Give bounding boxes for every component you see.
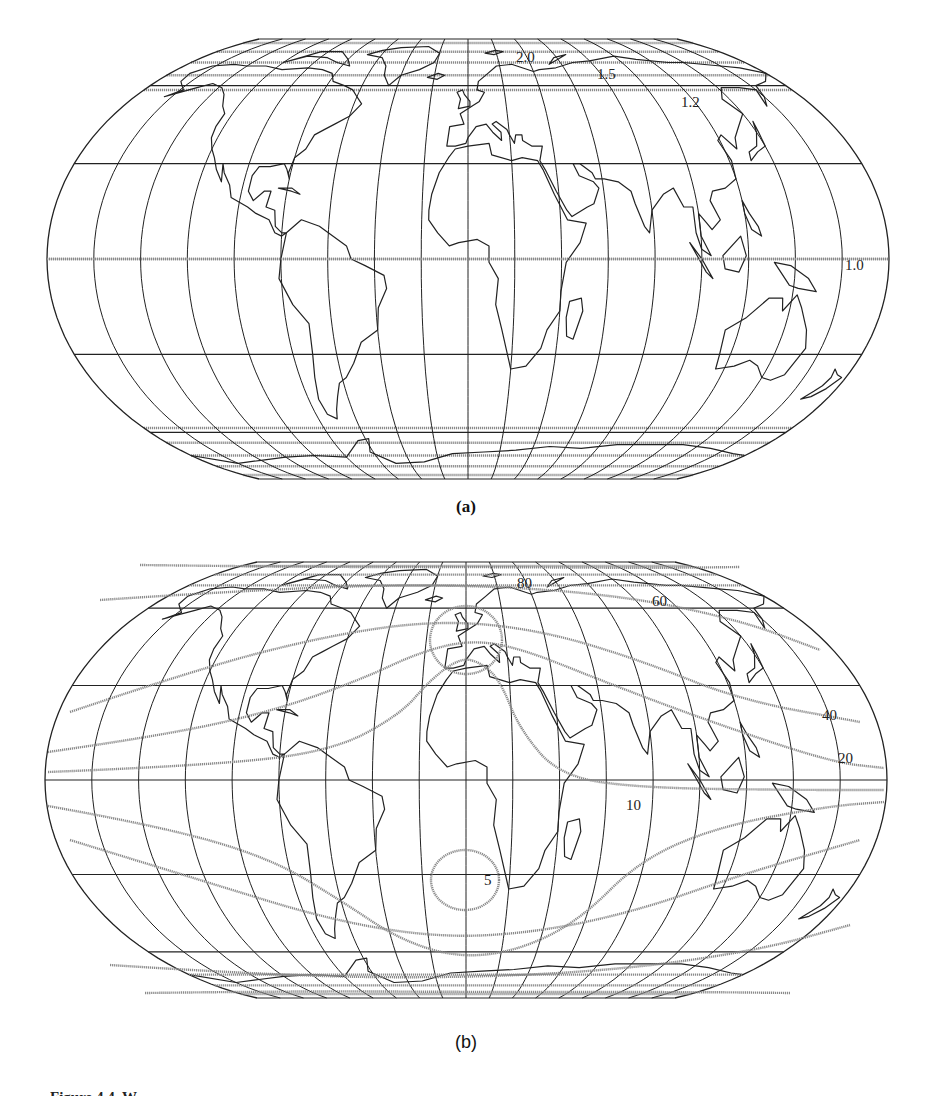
panel-label-a: (a)	[0, 497, 932, 517]
map-a: 2.0 1.5 1.2 1.0	[0, 0, 932, 540]
coastline-madagascar	[564, 819, 581, 860]
isoline-40-bottom	[70, 840, 860, 936]
coastline-madagascar	[566, 298, 583, 339]
coastline-japan	[747, 644, 763, 683]
coastline-indonesia2	[721, 757, 744, 793]
contour-label-20: 20	[838, 750, 853, 766]
coastline-iceland	[425, 596, 442, 602]
coastline-cuba	[276, 710, 298, 716]
coastline-southAmerica	[279, 220, 387, 419]
figure-panel-b: 80 60 40 20 10 5	[0, 540, 932, 1040]
panel-label-b: (b)	[0, 1032, 932, 1053]
contour-label-1.2: 1.2	[681, 94, 700, 110]
figure-caption-cropped: Figure 4.4. W...	[50, 1086, 147, 1096]
contour-label-5: 5	[484, 872, 492, 888]
coastline-cuba	[278, 188, 300, 194]
coastline-africa	[429, 143, 587, 369]
coastline-northAmerica	[162, 587, 359, 757]
isoline-40-top	[70, 623, 860, 722]
figure-panel-a: 2.0 1.5 1.2 1.0 (a)	[0, 0, 932, 540]
coastline-iceland	[427, 73, 444, 79]
contour-label-2.0: 2.0	[516, 49, 535, 65]
coastline-indonesia2	[723, 236, 746, 272]
coastline-arcticIs	[283, 52, 349, 66]
coastline-southAmerica	[277, 741, 385, 938]
map-b: 80 60 40 20 10 5	[0, 540, 932, 1040]
contour-label-1.0: 1.0	[845, 257, 864, 273]
contour-label-10: 10	[626, 797, 641, 813]
contour-label-80: 80	[517, 575, 532, 591]
contour-label-1.5: 1.5	[597, 66, 616, 82]
coastline-japan	[749, 121, 765, 160]
contour-label-60: 60	[652, 593, 667, 609]
coastline-africa	[427, 665, 585, 889]
contour-label-40: 40	[822, 707, 837, 723]
isoline-60-bottom	[110, 925, 850, 977]
coastline-australia	[716, 295, 807, 380]
coastline-australia	[714, 816, 805, 901]
